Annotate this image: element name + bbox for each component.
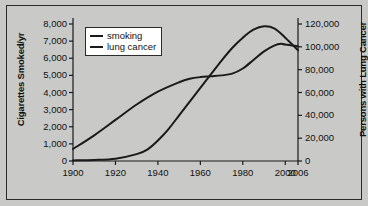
- chart-legend: smokinglung cancer: [85, 27, 162, 56]
- chart-figure: Cigarettes Smoked/yr Persons with Lung C…: [0, 0, 368, 206]
- legend-line-icon: [90, 35, 103, 37]
- plot-area: [7, 6, 363, 201]
- legend-item-label: lung cancer: [107, 41, 156, 52]
- legend-item-label: smoking: [107, 30, 142, 41]
- legend-item: lung cancer: [90, 41, 156, 52]
- series-line-smoking: [73, 44, 298, 149]
- legend-line-icon: [90, 46, 103, 48]
- legend-item: smoking: [90, 30, 156, 41]
- chart-frame: Cigarettes Smoked/yr Persons with Lung C…: [6, 5, 362, 200]
